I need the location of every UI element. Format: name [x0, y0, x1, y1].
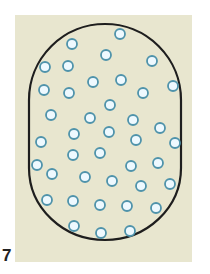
- particle-circle: [36, 137, 46, 147]
- particle-circle: [88, 77, 98, 87]
- particle-circle: [105, 100, 115, 110]
- particle-circle: [101, 50, 111, 60]
- particle-circle: [138, 88, 148, 98]
- particle-circle: [67, 39, 77, 49]
- particle-circle: [85, 113, 95, 123]
- particle-circle: [168, 81, 178, 91]
- particle-circle: [42, 195, 52, 205]
- particle-circle: [96, 228, 106, 238]
- particle-circle: [63, 61, 73, 71]
- particle-circle: [32, 160, 42, 170]
- particle-circle: [39, 85, 49, 95]
- particle-circle: [69, 129, 79, 139]
- particle-circle: [165, 179, 175, 189]
- particle-circle: [47, 169, 57, 179]
- particle-circle: [80, 172, 90, 182]
- particle-circle: [95, 148, 105, 158]
- particle-circle: [153, 158, 163, 168]
- particle-circle: [107, 176, 117, 186]
- particle-circle: [68, 196, 78, 206]
- particle-circle: [170, 138, 180, 148]
- particle-circle: [95, 200, 105, 210]
- particle-circle: [136, 181, 146, 191]
- particle-circle: [155, 123, 165, 133]
- particle-circle: [104, 127, 114, 137]
- particle-circle: [131, 135, 141, 145]
- particle-circle: [69, 221, 79, 231]
- particle-circle: [116, 75, 126, 85]
- particle-circle: [125, 226, 135, 236]
- particle-circle: [147, 56, 157, 66]
- particle-circle: [40, 62, 50, 72]
- particle-circle: [151, 203, 161, 213]
- particle-container-diagram: [0, 0, 210, 274]
- particle-circle: [128, 115, 138, 125]
- figure-number-label: 7: [2, 246, 11, 266]
- particle-circle: [126, 161, 136, 171]
- particles-group: [32, 29, 180, 238]
- particle-circle: [64, 88, 74, 98]
- particle-circle: [46, 110, 56, 120]
- particle-circle: [115, 29, 125, 39]
- particle-circle: [68, 150, 78, 160]
- particle-circle: [122, 201, 132, 211]
